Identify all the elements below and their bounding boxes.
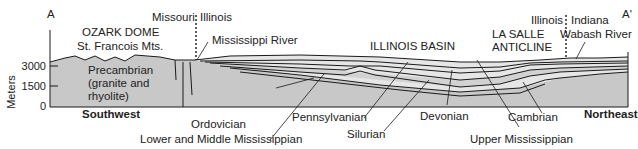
illinois-basin-label: ILLINOIS BASIN xyxy=(370,40,455,53)
y-tick-0: 0 xyxy=(10,100,46,112)
devonian-label: Devonian xyxy=(420,110,469,123)
upper-mississippian-label: Upper Mississippian xyxy=(470,133,573,146)
precambrian-granite-label: (granite and xyxy=(88,77,149,90)
missouri-label: Missouri xyxy=(152,11,195,24)
indiana-label: Indiana xyxy=(571,14,609,27)
direction-southwest: Southwest xyxy=(82,108,140,121)
pennsylvanian-label: Pennsylvanian xyxy=(292,111,367,124)
section-start-label: A xyxy=(47,8,55,21)
lower-middle-mississippian-label: Lower and Middle Mississippian xyxy=(140,133,302,146)
y-tick-3000: 3000 xyxy=(10,60,46,72)
la-salle-label: LA SALLE xyxy=(492,28,544,41)
ozark-dome-label: OZARK DOME xyxy=(82,26,159,39)
illinois-right-label: Illinois xyxy=(531,14,563,27)
ordovician-label: Ordovician xyxy=(191,118,246,131)
silurian-label: Silurian xyxy=(347,128,385,141)
y-tick-1500: 1500 xyxy=(10,80,46,92)
st-francois-label: St. Francois Mts. xyxy=(77,40,163,53)
section-end-label: A' xyxy=(622,8,632,21)
direction-northeast: Northeast xyxy=(584,108,638,121)
precambrian-rhyolite-label: rhyolite) xyxy=(88,90,129,103)
wabash-river-label: Wabash River xyxy=(560,28,632,41)
illinois-left-label: Illinois xyxy=(200,11,232,24)
cambrian-label: Cambrian xyxy=(508,111,558,124)
mississippi-river-label: Mississippi River xyxy=(212,34,298,47)
anticline-label: ANTICLINE xyxy=(492,41,552,54)
precambrian-label: Precambrian xyxy=(88,64,153,77)
